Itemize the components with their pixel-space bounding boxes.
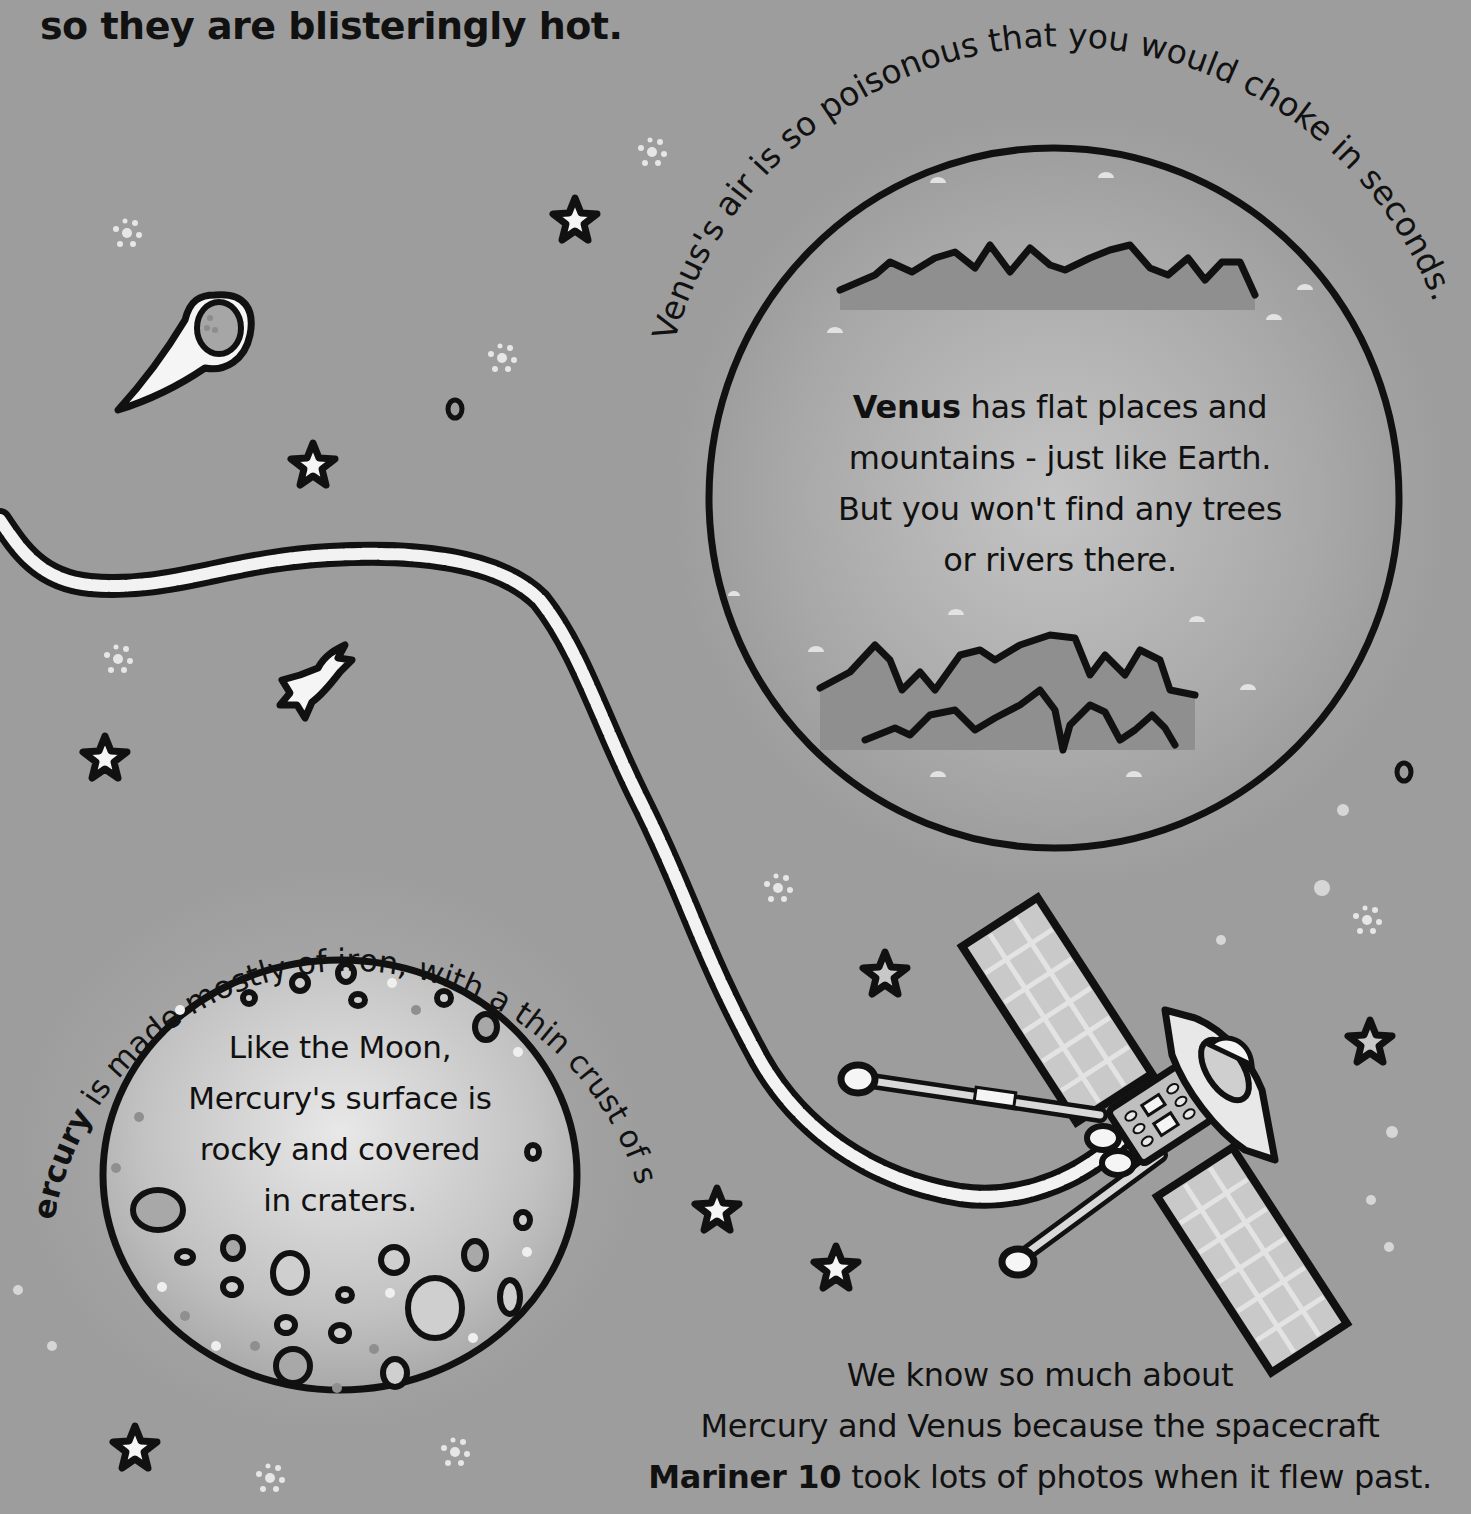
mercury-fact-line-4: in craters. [150,1175,530,1226]
comet-icon [118,295,251,410]
mountain-range-bottom [820,635,1195,750]
venus-name-bold: Venus [853,388,961,426]
venus-fact-line-4: or rivers there. [800,535,1320,586]
venus-fact-line-1-rest: has flat places and [961,388,1268,426]
illustration-canvas: Venus's air is so poisonous that you wou… [0,0,1471,1514]
spacecraft-icon [841,897,1347,1372]
venus-fact-line-1: Venus has flat places and [800,382,1320,433]
intro-sentence-end: so they are blisteringly hot. [40,4,622,48]
venus-fact-text: Venus has flat places and mountains - ju… [800,382,1320,586]
mercury-fact-line-2: Mercury's surface is [150,1073,530,1124]
mercury-fact-line-3: rocky and covered [150,1124,530,1175]
venus-fact-line-2: mountains - just like Earth. [800,433,1320,484]
mariner-fact-text: We know so much about Mercury and Venus … [610,1350,1470,1503]
mercury-fact-text: Like the Moon, Mercury's surface is rock… [150,1022,530,1226]
mariner-fact-line-1: We know so much about [610,1350,1470,1401]
mariner-fact-line-2: Mercury and Venus because the spacecraft [610,1401,1470,1452]
venus-fact-line-3: But you won't find any trees [800,484,1320,535]
mariner-fact-line-3-rest: took lots of photos when it flew past. [841,1458,1432,1496]
mariner-name-bold: Mariner 10 [648,1458,841,1496]
mercury-fact-line-1: Like the Moon, [150,1022,530,1073]
mariner-fact-line-3: Mariner 10 took lots of photos when it f… [610,1452,1470,1503]
shooting-star-icon [280,645,352,718]
